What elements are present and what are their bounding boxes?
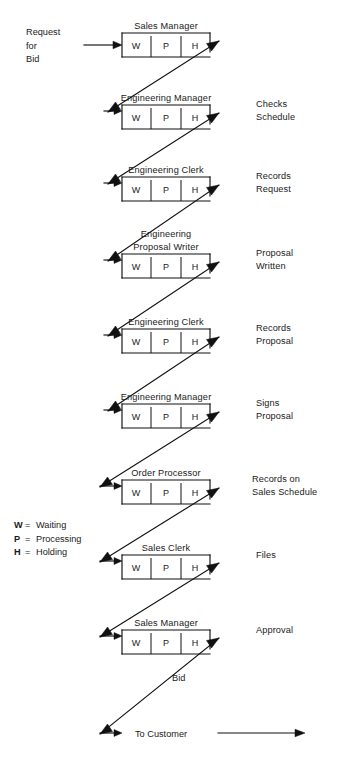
step-side-label-7-line-0: Records on xyxy=(252,474,300,484)
step-cell-4-1: P xyxy=(163,262,169,272)
step-title-1-line-0: Sales Manager xyxy=(134,21,198,31)
step-cell-8-2: H xyxy=(192,563,199,573)
step-title-4-line-0: Engineering xyxy=(141,229,192,239)
transfer-diagonal-9-to-output xyxy=(100,638,219,734)
step-title-8-line-0: Sales Clerk xyxy=(142,543,191,553)
legend-entry-2: H = Holding xyxy=(14,546,81,560)
legend-meaning-2: Holding xyxy=(36,546,67,560)
process-flow-diagram: Sales Manager W P H xyxy=(0,0,341,770)
legend-equals-2: = xyxy=(25,546,36,560)
step-cell-9-2: H xyxy=(192,638,199,648)
step-cell-1-2: H xyxy=(192,41,199,51)
step-side-label-2-line-1: Schedule xyxy=(256,112,295,122)
step-side-label-3-line-0: Records xyxy=(256,171,291,181)
legend-symbol-1: P xyxy=(14,533,25,547)
step-cell-7-1: P xyxy=(163,488,169,498)
step-row-7: Order Processor W P H Records on Sales S… xyxy=(100,468,317,562)
step-cell-6-1: P xyxy=(163,412,169,422)
step-side-label-4-line-1: Written xyxy=(256,261,286,271)
step-cell-7-2: H xyxy=(192,488,199,498)
step-title-2-line-0: Engineering Manager xyxy=(121,93,212,103)
input-label-line-1: for xyxy=(26,40,96,54)
step-title-7-line-0: Order Processor xyxy=(131,468,201,478)
step-cell-6-0: W xyxy=(132,412,141,422)
legend: W = Waiting P = Processing H = Holding xyxy=(14,519,81,560)
legend-entry-1: P = Processing xyxy=(14,533,81,547)
flow-diagram-canvas: Sales Manager W P H xyxy=(0,0,341,770)
step-side-label-7-line-1: Sales Schedule xyxy=(252,487,317,497)
step-cell-2-2: H xyxy=(192,113,199,123)
step-cell-3-1: P xyxy=(163,185,169,195)
step-cell-4-2: H xyxy=(192,262,199,272)
legend-symbol-2: H xyxy=(14,546,25,560)
step-cell-5-2: H xyxy=(192,337,199,347)
legend-meaning-0: Waiting xyxy=(36,519,66,533)
legend-equals-1: = xyxy=(25,533,36,547)
step-side-label-5-line-0: Records xyxy=(256,323,291,333)
final-flow-label: Bid xyxy=(172,673,185,683)
step-cell-8-0: W xyxy=(132,563,141,573)
step-cell-9-1: P xyxy=(163,638,169,648)
step-cell-2-0: W xyxy=(132,113,141,123)
output-flow: To Customer xyxy=(100,729,305,739)
step-title-3-line-0: Engineering Clerk xyxy=(128,165,204,175)
step-side-label-4-line-0: Proposal xyxy=(256,248,293,258)
step-side-label-3-line-1: Request xyxy=(256,184,291,194)
step-side-label-8-line-0: Files xyxy=(256,550,276,560)
output-label: To Customer xyxy=(135,729,187,739)
legend-entry-0: W = Waiting xyxy=(14,519,81,533)
step-side-label-6-line-0: Signs xyxy=(256,398,280,408)
step-cell-2-1: P xyxy=(163,113,169,123)
step-side-label-9-line-0: Approval xyxy=(256,625,293,635)
step-cell-1-1: P xyxy=(163,41,169,51)
legend-equals-0: = xyxy=(25,519,36,533)
step-cell-1-0: W xyxy=(132,41,141,51)
input-label-line-0: Request xyxy=(26,26,96,40)
step-cell-7-0: W xyxy=(132,488,141,498)
step-side-label-5-line-1: Proposal xyxy=(256,336,293,346)
step-side-label-6-line-1: Proposal xyxy=(256,411,293,421)
step-cell-5-1: P xyxy=(163,337,169,347)
step-cell-5-0: W xyxy=(132,337,141,347)
step-cell-3-0: W xyxy=(132,185,141,195)
step-cell-4-0: W xyxy=(132,262,141,272)
step-title-6-line-0: Engineering Manager xyxy=(121,392,212,402)
legend-meaning-1: Processing xyxy=(36,533,81,547)
step-cell-3-2: H xyxy=(192,185,199,195)
step-row-9: Sales Manager W P H Approval Bid xyxy=(100,618,293,734)
step-cell-6-2: H xyxy=(192,412,199,422)
step-cell-9-0: W xyxy=(132,638,141,648)
step-cell-8-1: P xyxy=(163,563,169,573)
step-title-9-line-0: Sales Manager xyxy=(134,618,198,628)
step-title-5-line-0: Engineering Clerk xyxy=(128,317,204,327)
step-side-label-2-line-0: Checks xyxy=(256,99,288,109)
input-label-line-2: Bid xyxy=(26,53,96,67)
step-title-4-line-1: Proposal Writer xyxy=(133,242,198,252)
legend-symbol-0: W xyxy=(14,519,25,533)
input-label: Request for Bid xyxy=(26,26,96,67)
